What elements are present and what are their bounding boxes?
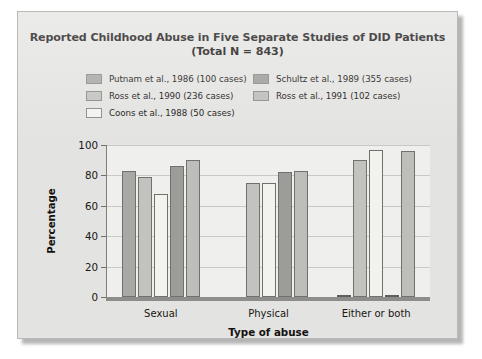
legend-label: Coons et al., 1988 (50 cases) [109,108,235,118]
legend-swatch [86,91,102,101]
bar[interactable] [369,150,383,297]
legend-swatch [86,74,102,84]
bar[interactable] [138,177,152,297]
y-axis-tick-label: 100 [78,139,98,151]
figure-panel: Reported Childhood Abuse in Five Separat… [17,11,458,339]
bar-group: Physical [215,145,323,297]
legend-item[interactable]: Ross et al., 1991 (102 cases) [253,91,400,101]
x-axis-line [106,297,430,301]
y-axis-tick-label: 20 [85,261,98,273]
y-axis-tick-label: 60 [85,200,98,212]
x-axis-tick-label: Physical [215,308,323,319]
y-axis-title: Percentage [46,188,57,254]
bar-group: Sexual [107,145,215,297]
legend-label: Ross et al., 1990 (236 cases) [109,91,233,101]
legend-label: Putnam et al., 1986 (100 cases) [109,74,247,84]
legend-swatch [86,108,102,118]
y-axis-tick-label: 80 [85,169,98,181]
bar[interactable] [353,160,367,297]
bar[interactable] [337,295,351,297]
bar[interactable] [154,194,168,297]
bar[interactable] [278,172,292,297]
bar[interactable] [294,171,308,297]
legend-item[interactable]: Putnam et al., 1986 (100 cases) [86,74,247,84]
x-axis-tick-label: Sexual [107,308,215,319]
bar[interactable] [385,295,399,297]
bar[interactable] [122,171,136,297]
bar-group: Either or both [322,145,430,297]
legend-label: Ross et al., 1991 (102 cases) [276,91,400,101]
legend-item[interactable]: Ross et al., 1990 (236 cases) [86,91,233,101]
y-axis-tick-label: 0 [91,291,98,303]
legend-swatch [253,74,269,84]
y-axis-tick-label: 40 [85,230,98,242]
chart-legend: Putnam et al., 1986 (100 cases)Ross et a… [86,74,406,124]
chart-title-line-1: Reported Childhood Abuse in Five Separat… [18,31,457,45]
legend-item[interactable]: Schultz et al., 1989 (355 cases) [253,74,412,84]
bar-groups: SexualPhysicalEither or both [107,145,430,297]
legend-swatch [253,91,269,101]
bar[interactable] [170,166,184,297]
bar[interactable] [262,183,276,297]
chart-title-line-2: (Total N = 843) [18,45,457,59]
legend-label: Schultz et al., 1989 (355 cases) [276,74,412,84]
chart-title: Reported Childhood Abuse in Five Separat… [18,31,457,58]
bar[interactable] [186,160,200,297]
bar[interactable] [246,183,260,297]
plot-area: 020406080100 SexualPhysicalEither or bot… [107,145,430,297]
x-axis-tick-label: Either or both [322,308,430,319]
bar[interactable] [401,151,415,297]
legend-item[interactable]: Coons et al., 1988 (50 cases) [86,108,235,118]
x-axis-title: Type of abuse [107,326,430,338]
